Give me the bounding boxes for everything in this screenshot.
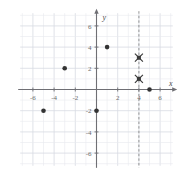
data-point bbox=[41, 108, 46, 113]
x-axis-label: x bbox=[168, 79, 173, 88]
y-tick-label: -2 bbox=[86, 107, 92, 115]
x-tick-label: -2 bbox=[72, 94, 78, 102]
y-tick-label: -4 bbox=[86, 129, 92, 137]
y-tick-label: 6 bbox=[88, 23, 92, 31]
y-tick-label: 4 bbox=[88, 44, 92, 52]
x-tick-label: 2 bbox=[116, 94, 120, 102]
y-tick-label: 2 bbox=[88, 65, 92, 73]
x-tick-label: 4 bbox=[137, 94, 141, 102]
coordinate-plane-graph: -6-4-2246 642-2-4-6 x y bbox=[0, 0, 195, 173]
x-tick-label: 6 bbox=[158, 94, 162, 102]
y-axis-label: y bbox=[102, 13, 107, 22]
data-point bbox=[105, 45, 110, 50]
data-point bbox=[94, 108, 99, 113]
y-tick-label: -6 bbox=[86, 150, 92, 158]
x-tick-label: -6 bbox=[30, 94, 36, 102]
data-point bbox=[147, 87, 152, 92]
data-point bbox=[62, 66, 67, 71]
graph-canvas: -6-4-2246 642-2-4-6 x y bbox=[0, 0, 195, 173]
x-tick-label: -4 bbox=[51, 94, 57, 102]
